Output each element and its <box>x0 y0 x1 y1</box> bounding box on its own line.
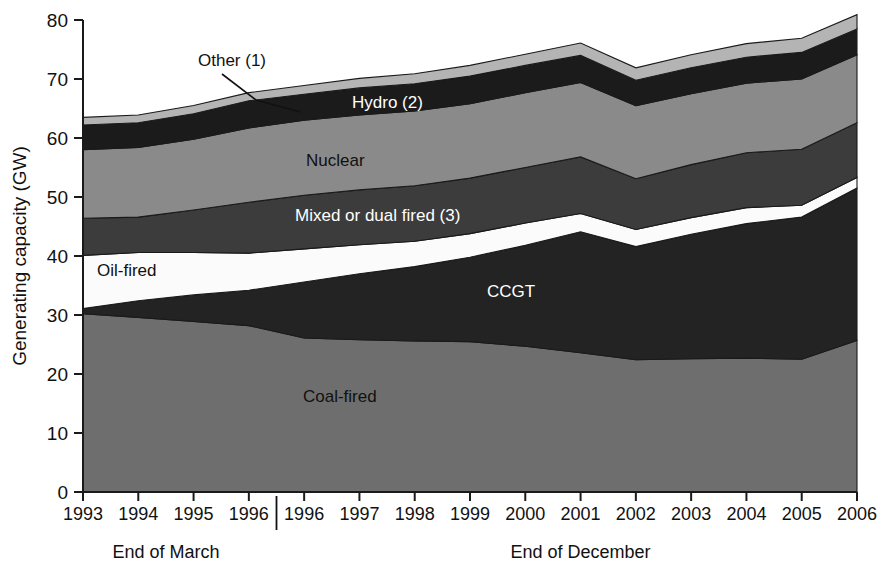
series-label-other: Other (1) <box>198 51 266 70</box>
series-label-nuclear: Nuclear <box>306 151 365 170</box>
x-tick-label-10: 2002 <box>616 504 656 524</box>
y-tick-label-80: 80 <box>47 10 68 31</box>
y-tick-labels: 80706050403020100 <box>47 10 68 503</box>
x-tick-label-2: 1995 <box>174 504 214 524</box>
x-group-label-right: End of December <box>511 542 651 562</box>
stacked-area-chart: 80706050403020100 1993199419951996199619… <box>0 0 888 583</box>
y-tick-label-20: 20 <box>47 364 68 385</box>
y-tick-label-0: 0 <box>57 482 68 503</box>
y-tick-label-40: 40 <box>47 246 68 267</box>
y-tick-label-10: 10 <box>47 423 68 444</box>
x-tick-label-12: 2004 <box>726 504 766 524</box>
x-tick-label-4: 1996 <box>284 504 324 524</box>
series-label-ccgt: CCGT <box>487 282 535 301</box>
x-tick-label-1: 1994 <box>118 504 158 524</box>
x-tick-label-5: 1997 <box>339 504 379 524</box>
y-tick-label-60: 60 <box>47 128 68 149</box>
x-tick-label-7: 1999 <box>450 504 490 524</box>
y-tick-label-50: 50 <box>47 187 68 208</box>
y-axis-title: Generating capacity (GW) <box>9 146 30 366</box>
series-label-hydro: Hydro (2) <box>352 93 423 112</box>
chart-svg: 80706050403020100 1993199419951996199619… <box>0 0 888 583</box>
x-group-label-left: End of March <box>112 542 219 562</box>
x-tick-label-0: 1993 <box>63 504 103 524</box>
x-tick-label-9: 2001 <box>561 504 601 524</box>
x-tick-label-8: 2000 <box>505 504 545 524</box>
x-tick-labels: 1993199419951996199619971998199920002001… <box>63 504 877 524</box>
series-label-mixed: Mixed or dual fired (3) <box>295 206 460 225</box>
series-label-coal: Coal-fired <box>303 387 377 406</box>
y-tick-label-70: 70 <box>47 69 68 90</box>
x-tick-label-3: 1996 <box>229 504 269 524</box>
x-tick-label-11: 2003 <box>671 504 711 524</box>
x-tick-label-14: 2006 <box>837 504 877 524</box>
series-label-oil: Oil-fired <box>97 261 157 280</box>
y-tick-label-30: 30 <box>47 305 68 326</box>
x-tick-label-6: 1998 <box>395 504 435 524</box>
x-tick-label-13: 2005 <box>782 504 822 524</box>
